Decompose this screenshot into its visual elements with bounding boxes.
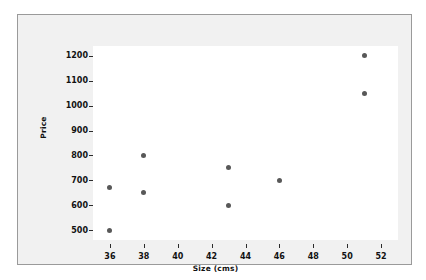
- x-tick-label: 42: [200, 252, 224, 261]
- x-tick-label: 36: [98, 252, 122, 261]
- y-tick-mark: [89, 131, 93, 132]
- scatter-plot-area: [93, 46, 398, 240]
- x-tick-mark: [178, 244, 179, 248]
- data-point: [226, 203, 231, 208]
- data-point: [362, 91, 367, 96]
- x-tick-mark: [313, 244, 314, 248]
- x-tick-mark: [279, 244, 280, 248]
- x-tick-mark: [144, 244, 145, 248]
- chart-figure-panel: Price Size (cms) 50060070080090010001100…: [17, 14, 412, 265]
- y-tick-mark: [89, 106, 93, 107]
- x-tick-label: 48: [301, 252, 325, 261]
- x-tick-mark: [246, 244, 247, 248]
- x-tick-label: 44: [234, 252, 258, 261]
- y-tick-label: 700: [38, 176, 88, 185]
- x-axis-title: Size (cms): [18, 264, 413, 273]
- x-tick-mark: [212, 244, 213, 248]
- y-tick-label: 1000: [38, 101, 88, 110]
- y-tick-mark: [89, 205, 93, 206]
- y-tick-mark: [89, 155, 93, 156]
- x-tick-mark: [110, 244, 111, 248]
- y-tick-label: 600: [38, 201, 88, 210]
- y-tick-mark: [89, 56, 93, 57]
- y-tick-label: 800: [38, 151, 88, 160]
- y-tick-mark: [89, 180, 93, 181]
- data-point: [277, 178, 282, 183]
- y-tick-label: 500: [38, 226, 88, 235]
- x-tick-label: 46: [267, 252, 291, 261]
- x-tick-mark: [381, 244, 382, 248]
- y-tick-label: 1200: [38, 51, 88, 60]
- y-tick-label: 900: [38, 126, 88, 135]
- y-tick-mark: [89, 81, 93, 82]
- x-tick-label: 52: [369, 252, 393, 261]
- y-tick-mark: [89, 230, 93, 231]
- y-tick-label: 1100: [38, 76, 88, 85]
- x-tick-label: 50: [335, 252, 359, 261]
- x-tick-label: 38: [132, 252, 156, 261]
- x-tick-mark: [347, 244, 348, 248]
- x-tick-label: 40: [166, 252, 190, 261]
